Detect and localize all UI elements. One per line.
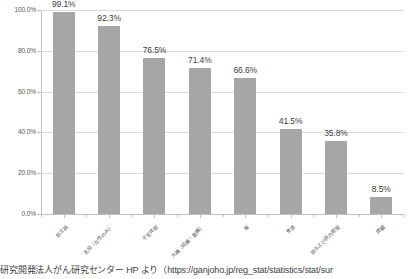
bar	[98, 26, 120, 214]
x-minor-tick	[132, 215, 133, 217]
x-minor-tick	[404, 215, 405, 217]
y-tick-label: 80.0%	[0, 47, 36, 54]
bar	[189, 68, 211, 214]
x-tick-mark	[291, 215, 292, 218]
bar-value-label: 35.8%	[311, 128, 361, 138]
x-minor-tick	[86, 215, 87, 217]
bar-value-label: 99.1%	[39, 0, 89, 9]
y-tick-mark	[37, 214, 41, 215]
x-tick-mark	[109, 215, 110, 218]
x-minor-tick	[223, 215, 224, 217]
gridline	[41, 173, 404, 174]
y-tick-mark	[37, 10, 41, 11]
y-tick-label: 0.0%	[0, 210, 36, 217]
y-tick-label: 20.0%	[0, 169, 36, 176]
y-tick-label: 40.0%	[0, 128, 36, 135]
x-tick-mark	[336, 215, 337, 218]
x-tick-mark	[200, 215, 201, 218]
x-minor-tick	[41, 215, 42, 217]
bar-value-label: 92.3%	[84, 13, 134, 23]
bar-value-label: 41.5%	[266, 116, 316, 126]
x-tick-mark	[245, 215, 246, 218]
x-minor-tick	[359, 215, 360, 217]
bar	[143, 58, 165, 214]
y-tick-mark	[37, 173, 41, 174]
y-tick-label: 60.0%	[0, 88, 36, 95]
bar-value-label: 66.6%	[220, 65, 270, 75]
y-tick-mark	[37, 132, 41, 133]
gridline	[41, 51, 404, 52]
plot-area: 99.1%92.3%76.5%71.4%66.6%41.5%35.8%8.5%	[41, 10, 404, 214]
bar	[325, 141, 347, 214]
bar-value-label: 71.4%	[175, 55, 225, 65]
y-tick-mark	[37, 51, 41, 52]
gridline	[41, 10, 404, 11]
x-minor-tick	[313, 215, 314, 217]
survival-rate-bar-chart: 99.1%92.3%76.5%71.4%66.6%41.5%35.8%8.5% …	[0, 0, 409, 279]
bar	[234, 78, 256, 214]
x-minor-tick	[268, 215, 269, 217]
y-tick-label: 100.0%	[0, 6, 36, 13]
bar-value-label: 76.5%	[129, 45, 179, 55]
y-tick-mark	[37, 92, 41, 93]
gridline	[41, 92, 404, 93]
bar	[53, 12, 75, 214]
bar	[370, 197, 392, 214]
x-minor-tick	[177, 215, 178, 217]
x-tick-mark	[154, 215, 155, 218]
source-caption: 研究開発法人がん研究センター HP より（https://ganjoho.jp/…	[0, 263, 409, 276]
x-tick-mark	[64, 215, 65, 218]
x-tick-mark	[381, 215, 382, 218]
bar-value-label: 8.5%	[356, 184, 406, 194]
bar	[280, 129, 302, 214]
